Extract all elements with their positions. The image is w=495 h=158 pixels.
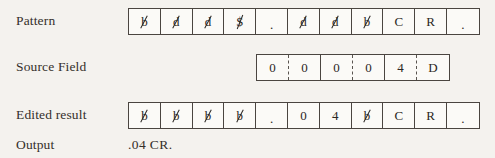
edited-result-cell: b [352, 103, 384, 128]
pattern-row: Pattern b d d $ . d d b C R . [0, 6, 495, 36]
pattern-cell: . [447, 9, 479, 34]
pattern-row-label: Pattern [16, 6, 55, 36]
blank-slashed-b-icon: b [141, 109, 148, 122]
digit-select-slashed-d-icon: d [173, 15, 180, 28]
output-row-label: Output [16, 130, 54, 158]
digit-select-slashed-d-icon: d [332, 15, 339, 28]
source-field-row: Source Field 0 0 0 0 4 D [0, 52, 495, 82]
source-field-cell: 0 [353, 55, 385, 80]
source-field-cell: D [417, 55, 449, 80]
edited-result-cell: . [447, 103, 479, 128]
letter-c-glyph: C [394, 109, 403, 122]
digit-four-glyph: 4 [332, 109, 339, 122]
pattern-cell: d [161, 9, 193, 34]
blank-slashed-b-icon: b [173, 109, 180, 122]
output-row: Output .04 CR. [0, 130, 495, 158]
pattern-cell: b [129, 9, 161, 34]
pattern-cell: d [193, 9, 225, 34]
edit-pattern-figure: Pattern b d d $ . d d b C R . Source Fie… [0, 0, 495, 158]
letter-r-glyph: R [426, 15, 435, 28]
pattern-cell: d [320, 9, 352, 34]
source-field-cell: 0 [321, 55, 353, 80]
period-glyph: . [461, 18, 464, 31]
pattern-cell-strip: b d d $ . d d b C R . [128, 8, 480, 35]
edited-result-cell: b [161, 103, 193, 128]
pattern-cell: d [288, 9, 320, 34]
digit-zero-glyph: 0 [300, 109, 307, 122]
pattern-cell: . [256, 9, 288, 34]
letter-d-sign-glyph: D [428, 61, 437, 74]
source-field-cell-strip: 0 0 0 0 4 D [256, 54, 450, 81]
blank-slashed-b-icon: b [237, 109, 244, 122]
digit-four-glyph: 4 [397, 61, 404, 74]
output-value: .04 CR. [128, 130, 172, 158]
pattern-cell: $ [224, 9, 256, 34]
edited-result-cell: R [415, 103, 447, 128]
edited-result-cell: b [193, 103, 225, 128]
digit-zero-glyph: 0 [333, 61, 340, 74]
significance-start-slashed-dollar-icon: $ [237, 15, 244, 28]
period-glyph: . [461, 112, 464, 125]
edited-result-cell: . [256, 103, 288, 128]
digit-select-slashed-d-icon: d [205, 15, 212, 28]
edited-result-cell-strip: b b b b . 0 4 b C R . [128, 102, 480, 129]
blank-slashed-b-icon: b [364, 15, 371, 28]
edited-result-cell: C [383, 103, 415, 128]
period-glyph: . [270, 18, 273, 31]
digit-zero-glyph: 0 [269, 61, 276, 74]
edited-result-cell: 0 [288, 103, 320, 128]
pattern-cell: b [352, 9, 384, 34]
blank-slashed-b-icon: b [205, 109, 212, 122]
edited-result-cell: b [224, 103, 256, 128]
edited-result-row-label: Edited result [16, 100, 87, 130]
letter-c-glyph: C [394, 15, 403, 28]
digit-zero-glyph: 0 [365, 61, 372, 74]
letter-r-glyph: R [426, 109, 435, 122]
digit-select-slashed-d-icon: d [300, 15, 307, 28]
source-field-cell: 4 [385, 55, 417, 80]
edited-result-row: Edited result b b b b . 0 4 b C R . [0, 100, 495, 130]
pattern-cell: C [383, 9, 415, 34]
digit-zero-glyph: 0 [301, 61, 308, 74]
period-glyph: . [270, 112, 273, 125]
source-field-row-label: Source Field [16, 52, 86, 82]
edited-result-cell: b [129, 103, 161, 128]
source-field-cell: 0 [257, 55, 289, 80]
source-field-cell: 0 [289, 55, 321, 80]
edited-result-cell: 4 [320, 103, 352, 128]
blank-slashed-b-icon: b [364, 109, 371, 122]
blank-slashed-b-icon: b [141, 15, 148, 28]
pattern-cell: R [415, 9, 447, 34]
